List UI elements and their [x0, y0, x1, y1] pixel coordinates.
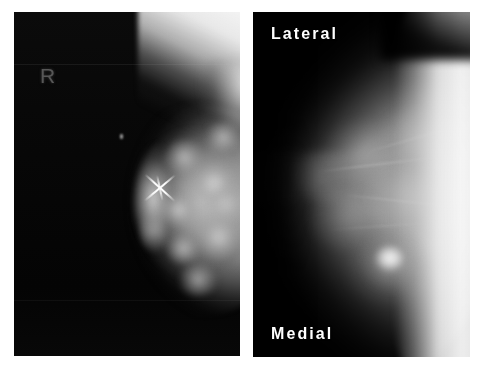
left-margin-shadow	[253, 12, 315, 357]
tissue-texture-blob	[166, 234, 200, 264]
tissue-texture-blob	[204, 122, 240, 152]
skin-marker-x-icon	[142, 168, 178, 208]
mammogram-panel-right[interactable]: Lateral Medial	[253, 12, 470, 357]
tissue-texture-blob	[178, 264, 218, 296]
chest-wall-top-shadow	[380, 12, 470, 60]
nodule-lesion[interactable]	[373, 244, 409, 276]
orientation-label-lateral: Lateral	[271, 25, 338, 43]
tissue-texture-blob	[140, 210, 166, 254]
film-scanline	[14, 300, 240, 301]
mammogram-figure: R Lateral Medial	[0, 0, 483, 367]
tissue-texture-blob	[196, 218, 240, 258]
film-dot-artifact	[120, 134, 123, 139]
tissue-texture-blob	[210, 182, 240, 226]
laterality-marker-r: R	[40, 64, 56, 88]
orientation-label-medial: Medial	[271, 325, 333, 343]
mammogram-panel-left[interactable]: R	[14, 12, 240, 356]
chest-wall-band	[394, 12, 470, 357]
